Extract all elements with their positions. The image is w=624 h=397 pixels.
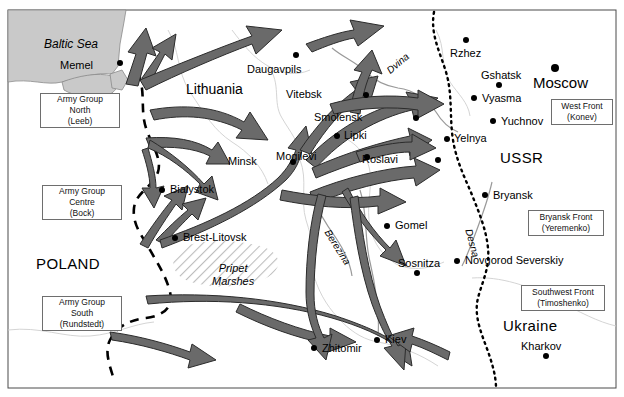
unit-box-southwest-front-line1: Southwest Front	[532, 287, 594, 298]
city-label-bryansk[interactable]: Bryansk	[493, 190, 533, 201]
unit-box-southwest-front[interactable]: Southwest Front(Timoshenko)	[521, 285, 605, 311]
unit-box-army-group-centre-line3: (Bock)	[70, 208, 95, 219]
city-label-sosnitza[interactable]: Sosnitza	[398, 258, 440, 269]
city-dot-memel[interactable]	[117, 60, 123, 66]
city-dot-vitebsk[interactable]	[363, 92, 369, 98]
unit-box-southwest-front-line2: (Timoshenko)	[537, 298, 589, 309]
city-label-brest-litovsk[interactable]: Brest-Litovsk	[183, 232, 247, 243]
city-dot-gshatsk[interactable]	[496, 82, 502, 88]
city-dot-sosnitza[interactable]	[414, 270, 420, 276]
city-label-kiev[interactable]: Kiev	[385, 334, 406, 345]
unit-box-bryansk-front[interactable]: Bryansk Front(Yeremenko)	[528, 210, 604, 236]
unit-box-army-group-south[interactable]: Army GroupSouth(Rundstedt)	[42, 296, 122, 331]
city-label-yuchnov[interactable]: Yuchnov	[501, 116, 543, 127]
city-dot-gomel[interactable]	[384, 223, 390, 229]
city-label-smolensk[interactable]: Smolensk	[314, 112, 362, 123]
city-label-daugavpils[interactable]: Daugavpils	[247, 64, 301, 75]
city-label-vitebsk[interactable]: Vitebsk	[286, 89, 322, 100]
unit-box-army-group-north-line3: (Leeb)	[68, 116, 93, 127]
city-label-lipki[interactable]: Lipki	[344, 130, 367, 141]
city-dot-brest-litovsk[interactable]	[172, 235, 178, 241]
city-label-rzhez[interactable]: Rzhez	[450, 48, 481, 59]
unit-box-army-group-south-line2: South	[71, 308, 93, 319]
city-dot-roslavi[interactable]	[435, 157, 441, 163]
city-dot-smolensk[interactable]	[413, 115, 419, 121]
unit-box-army-group-south-line3: (Rundstedt)	[60, 319, 104, 330]
city-label-minsk[interactable]: Minsk	[228, 156, 257, 167]
city-dot-yuchnov[interactable]	[490, 118, 496, 124]
city-dot-yelnya[interactable]	[444, 136, 450, 142]
city-label-zhitomir[interactable]: Zhitomir	[322, 343, 362, 354]
city-label-novgorod-severskiy[interactable]: Novgorod Severskiy	[465, 255, 563, 266]
city-dot-kharkov[interactable]	[543, 353, 549, 359]
unit-box-bryansk-front-line2: (Yeremenko)	[542, 223, 590, 234]
unit-box-army-group-north[interactable]: Army GroupNorth(Leeb)	[40, 93, 120, 128]
region-label-poland: POLAND	[36, 256, 100, 271]
city-label-gshatsk[interactable]: Gshatsk	[481, 70, 521, 81]
unit-box-bryansk-front-line1: Bryansk Front	[540, 212, 593, 223]
unit-box-west-front-line1: West Front	[561, 101, 602, 112]
unit-box-army-group-south-line1: Army Group	[59, 297, 105, 308]
city-dot-zhitomir[interactable]	[311, 345, 317, 351]
pripet-marshes-label-line1: Pripet	[212, 262, 254, 275]
sea-label-baltic-sea: Baltic Sea	[44, 38, 98, 50]
city-dot-vyasma[interactable]	[471, 95, 477, 101]
unit-box-army-group-north-line2: North	[70, 105, 91, 116]
city-label-vyasma[interactable]: Vyasma	[482, 93, 521, 104]
region-label-ussr: USSR	[500, 150, 543, 165]
city-label-gomel[interactable]: Gomel	[395, 220, 427, 231]
unit-box-west-front[interactable]: West Front(Konev)	[551, 99, 613, 125]
city-dot-mogilevi[interactable]	[364, 154, 370, 160]
region-label-lithuania: Lithuania	[186, 82, 243, 96]
city-label-yelnya[interactable]: Yelnya	[454, 133, 487, 144]
city-dot-moscow[interactable]	[551, 64, 559, 72]
city-dot-bialystok[interactable]	[159, 187, 165, 193]
city-label-mogilevi[interactable]: Mogilevi	[276, 151, 316, 162]
region-label-ukraine: Ukraine	[503, 318, 558, 333]
pripet-marshes-label-line2: Marshes	[212, 275, 254, 288]
unit-box-army-group-centre[interactable]: Army GroupCentre(Bock)	[42, 185, 122, 220]
barbarossa-map: Baltic SeaDvinaBerezinaDesnaLithuaniaPOL…	[0, 0, 624, 397]
unit-box-west-front-line2: (Konev)	[567, 112, 597, 123]
unit-box-army-group-centre-line2: Centre	[69, 197, 95, 208]
pripet-marshes-label: PripetMarshes	[212, 262, 254, 287]
city-dot-daugavpils[interactable]	[293, 52, 299, 58]
unit-box-army-group-north-line1: Army Group	[57, 94, 103, 105]
city-dot-rzhez[interactable]	[463, 37, 469, 43]
city-label-moscow[interactable]: Moscow	[533, 75, 588, 90]
city-dot-bryansk[interactable]	[482, 192, 488, 198]
city-label-memel[interactable]: Memel	[60, 60, 93, 71]
city-dot-minsk[interactable]	[290, 159, 296, 165]
unit-box-army-group-centre-line1: Army Group	[59, 186, 105, 197]
city-dot-novgorod-severskiy[interactable]	[454, 258, 460, 264]
city-dot-kiev[interactable]	[374, 337, 380, 343]
city-dot-lipki[interactable]	[334, 133, 340, 139]
city-label-kharkov[interactable]: Kharkov	[521, 341, 561, 352]
city-label-bialystok[interactable]: Bialystok	[170, 184, 214, 195]
